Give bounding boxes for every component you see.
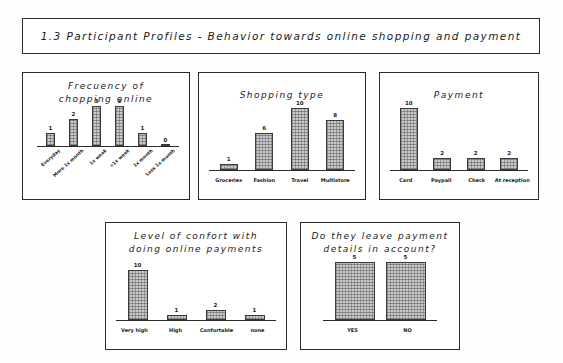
bar-slot: 2 bbox=[433, 108, 451, 170]
bar-slot: 5 bbox=[386, 262, 426, 320]
bar-slot: 1 bbox=[167, 270, 187, 320]
x-tick-label: NO bbox=[380, 327, 435, 333]
bar-slot: 6 bbox=[255, 108, 273, 170]
slide-title: 1.3 Participant Profiles - Behavior towa… bbox=[41, 30, 521, 42]
bar-value-label: 1 bbox=[235, 307, 275, 313]
bar[interactable] bbox=[245, 315, 265, 320]
bar-slot: 2 bbox=[467, 108, 485, 170]
x-tick-label: Less 1x month bbox=[154, 147, 177, 189]
x-tick-label: At reception bbox=[495, 177, 531, 183]
bar-slot: 3 bbox=[92, 106, 101, 146]
x-tick-labels-frequency: EverydayMore 1x month1x week+1x week1x m… bbox=[39, 147, 177, 189]
bar[interactable] bbox=[206, 310, 226, 320]
x-tick-label: none bbox=[237, 327, 278, 333]
bar-slot: 0 bbox=[161, 106, 170, 146]
whiteboard-slide: 1.3 Participant Profiles - Behavior towa… bbox=[0, 0, 563, 363]
x-tick-labels-shopping-type: GroceriesFashionTravelMultistore bbox=[211, 177, 353, 183]
chart-panel-frequency-of-shopping-online: Frecuency of chopping online 123310 Ever… bbox=[22, 72, 190, 200]
x-tick-label: Fashion bbox=[247, 177, 283, 183]
bar-slot: 2 bbox=[206, 270, 226, 320]
bar-value-label: 3 bbox=[100, 98, 140, 104]
x-tick-label: Travel bbox=[282, 177, 318, 183]
bar-slot: 2 bbox=[500, 108, 518, 170]
chart-panel-payment: Payment 10222 CardPaypallCheckAt recepti… bbox=[379, 72, 539, 200]
bar-group-shopping-type: 16108 bbox=[211, 108, 353, 170]
bar-slot: 1 bbox=[220, 108, 238, 170]
bar[interactable] bbox=[46, 133, 55, 146]
bar-slot: 8 bbox=[326, 108, 344, 170]
bar-group-level-of-comfort: 10121 bbox=[118, 270, 274, 320]
bar-value-label: 5 bbox=[386, 254, 426, 260]
chart-panel-level-of-comfort: Level of confort with doing online payme… bbox=[105, 222, 287, 350]
x-tick-label: 1x week bbox=[85, 147, 108, 189]
bar[interactable] bbox=[92, 106, 101, 146]
plot-area-shopping-type: 16108 GroceriesFashionTravelMultistore bbox=[199, 73, 365, 199]
bar-slot: 10 bbox=[291, 108, 309, 170]
bar-value-label: 8 bbox=[315, 112, 355, 118]
x-tick-label: More 1x month bbox=[62, 147, 85, 189]
x-tick-labels-level-of-comfort: Very highHighConfortablenone bbox=[114, 327, 278, 333]
x-tick-labels-leave-payment-details: YESNO bbox=[325, 327, 435, 333]
bar-value-label: 2 bbox=[489, 150, 529, 156]
bar[interactable] bbox=[128, 270, 148, 320]
bar[interactable] bbox=[386, 262, 426, 320]
slide-title-box: 1.3 Participant Profiles - Behavior towa… bbox=[22, 18, 540, 54]
bar-value-label: 2 bbox=[54, 111, 94, 117]
bar-slot: 2 bbox=[69, 106, 78, 146]
x-tick-label: Check bbox=[459, 177, 495, 183]
x-tick-label: Confortable bbox=[196, 327, 237, 333]
bar[interactable] bbox=[161, 144, 170, 146]
bar-slot: 5 bbox=[335, 262, 375, 320]
bar-value-label: 10 bbox=[118, 262, 158, 268]
bar[interactable] bbox=[400, 108, 418, 170]
bar-value-label: 1 bbox=[123, 125, 163, 131]
bar[interactable] bbox=[255, 133, 273, 170]
bar[interactable] bbox=[220, 164, 238, 170]
bar[interactable] bbox=[291, 108, 309, 170]
plot-area-payment: 10222 CardPaypallCheckAt reception bbox=[380, 73, 538, 199]
plot-area-leave-payment-details: 55 YESNO bbox=[301, 223, 459, 349]
bar-slot: 10 bbox=[128, 270, 148, 320]
x-tick-label: +1x week bbox=[108, 147, 131, 189]
bar-value-label: 0 bbox=[146, 137, 186, 143]
x-tick-label: Paypall bbox=[424, 177, 460, 183]
bar-group-leave-payment-details: 55 bbox=[329, 262, 431, 320]
bar-value-label: 2 bbox=[196, 302, 236, 308]
bar[interactable] bbox=[335, 262, 375, 320]
x-tick-label: Multistore bbox=[318, 177, 354, 183]
bar[interactable] bbox=[167, 315, 187, 320]
bar[interactable] bbox=[500, 158, 518, 170]
x-tick-label: High bbox=[155, 327, 196, 333]
bar-value-label: 6 bbox=[244, 125, 284, 131]
chart-panel-leave-payment-details: Do they leave payment details in account… bbox=[300, 222, 460, 350]
x-tick-label: YES bbox=[325, 327, 380, 333]
bar-slot: 1 bbox=[245, 270, 265, 320]
bar-group-frequency: 123310 bbox=[39, 106, 177, 146]
bar-value-label: 1 bbox=[157, 307, 197, 313]
bar-value-label: 10 bbox=[280, 100, 320, 106]
bar-value-label: 5 bbox=[335, 254, 375, 260]
bar-value-label: 10 bbox=[389, 100, 429, 106]
x-tick-label: Groceries bbox=[211, 177, 247, 183]
bar[interactable] bbox=[326, 120, 344, 170]
bar[interactable] bbox=[467, 158, 485, 170]
plot-area-frequency: 123310 EverydayMore 1x month1x week+1x w… bbox=[23, 73, 189, 199]
chart-panel-shopping-type: Shopping type 16108 GroceriesFashionTrav… bbox=[198, 72, 366, 200]
bar[interactable] bbox=[433, 158, 451, 170]
bar-value-label: 1 bbox=[31, 125, 71, 131]
bar-slot: 10 bbox=[400, 108, 418, 170]
x-tick-labels-payment: CardPaypallCheckAt reception bbox=[388, 177, 530, 183]
bar-value-label: 1 bbox=[209, 156, 249, 162]
plot-area-level-of-comfort: 10121 Very highHighConfortablenone bbox=[106, 223, 286, 349]
bar[interactable] bbox=[69, 119, 78, 146]
x-tick-label: Very high bbox=[114, 327, 155, 333]
bar-group-payment: 10222 bbox=[392, 108, 526, 170]
x-tick-label: Card bbox=[388, 177, 424, 183]
